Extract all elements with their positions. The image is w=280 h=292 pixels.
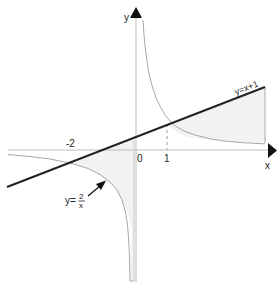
origin-label: 0 bbox=[137, 153, 143, 164]
tick-label-1: 1 bbox=[164, 153, 170, 164]
tick-label-minus-2: -2 bbox=[66, 138, 75, 149]
pointer-arrow-shaft bbox=[88, 186, 100, 196]
hyperbola-label-prefix: y= bbox=[65, 195, 76, 206]
x-axis-label: x bbox=[265, 160, 270, 171]
y-axis-label: y bbox=[124, 12, 129, 23]
y-axis-arrow-icon bbox=[130, 7, 142, 18]
x-axis-arrow-icon bbox=[268, 143, 277, 158]
graph-canvas: y x 0 1 -2 y=x+1 y= 2 x bbox=[0, 0, 280, 292]
hyperbola-label-numerator: 2 bbox=[79, 192, 84, 201]
hyperbola-label-denominator: x bbox=[79, 201, 83, 210]
shaded-region-right bbox=[167, 87, 265, 143]
